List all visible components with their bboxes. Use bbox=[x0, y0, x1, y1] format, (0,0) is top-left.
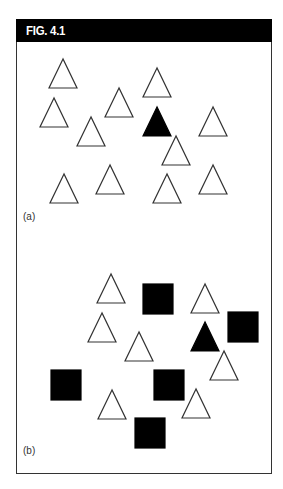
outline-triangle-icon bbox=[40, 98, 68, 127]
outline-triangle-icon bbox=[199, 107, 227, 136]
filled-square-icon bbox=[228, 312, 258, 342]
outline-triangle-icon bbox=[77, 117, 105, 146]
outline-triangle-icon bbox=[98, 390, 126, 419]
outline-triangle-icon bbox=[210, 351, 238, 380]
outline-triangle-icon bbox=[105, 88, 133, 117]
outline-triangle-icon bbox=[50, 174, 78, 203]
outline-triangle-icon bbox=[199, 165, 227, 194]
filled-square-icon bbox=[135, 418, 165, 448]
outline-triangle-icon bbox=[96, 165, 124, 194]
outline-triangle-icon bbox=[182, 389, 210, 418]
panel-a bbox=[40, 59, 227, 203]
outline-triangle-icon bbox=[88, 313, 116, 342]
panel-a-label: (a) bbox=[23, 211, 35, 222]
outline-triangle-icon bbox=[191, 284, 219, 313]
outline-triangle-icon bbox=[125, 332, 153, 361]
panel-b bbox=[51, 274, 258, 448]
filled-square-icon bbox=[143, 284, 173, 314]
outline-triangle-icon bbox=[97, 274, 125, 303]
filled-square-icon bbox=[154, 370, 184, 400]
outline-triangle-icon bbox=[153, 174, 181, 203]
panel-b-label: (b) bbox=[23, 445, 35, 456]
filled-triangle-icon bbox=[143, 107, 171, 136]
outline-triangle-icon bbox=[162, 136, 190, 165]
filled-triangle-icon bbox=[191, 322, 219, 351]
outline-triangle-icon bbox=[143, 68, 171, 97]
figure-shapes bbox=[0, 0, 283, 489]
outline-triangle-icon bbox=[49, 59, 77, 88]
filled-square-icon bbox=[51, 370, 81, 400]
